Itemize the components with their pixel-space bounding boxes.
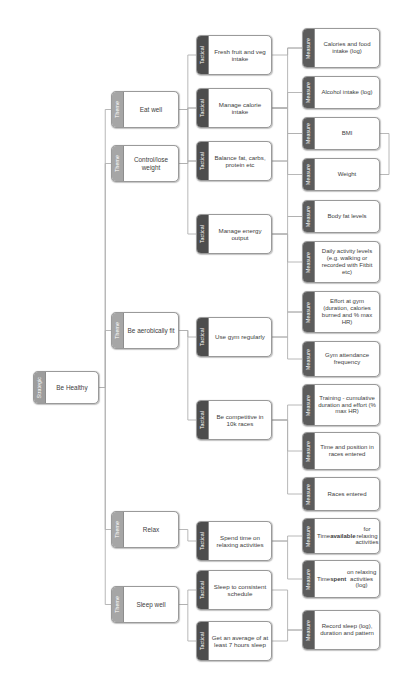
node-label-time-available-for-relaxing-activities: Time available for relaxing activities xyxy=(315,519,380,553)
connector-be-aerobically-fit-to-use-gym-regularly xyxy=(179,331,196,338)
level-band-daily-activity-levels: Measure xyxy=(303,242,315,282)
connector-balance-fat-carbs-protein-etc-to-body-fat-levels xyxy=(272,161,302,217)
connector-be-healthy-to-eat-well xyxy=(99,110,111,388)
tactical-node-get-an-average-of-at-least-7-hours-sleep[interactable]: TacticalGet an average of at least 7 hou… xyxy=(196,621,272,661)
connector-be-competitive-in-10k-races-to-races-entered xyxy=(272,420,302,494)
connector-control-lose-weight-to-manage-calorie-intake xyxy=(179,108,196,164)
tactical-node-manage-energy-output[interactable]: TacticalManage energy output xyxy=(196,214,272,254)
measure-node-training-cumulative-duration-and-effort[interactable]: MeasureTraining - cumulative duration an… xyxy=(302,384,380,426)
level-band-be-aerobically-fit: Theme xyxy=(112,313,124,348)
node-label-get-an-average-of-at-least-7-hours-sleep: Get an average of at least 7 hours sleep xyxy=(209,622,271,660)
level-band-control-lose-weight: Theme xyxy=(112,146,124,181)
level-band-weight: Measure xyxy=(303,159,315,190)
node-label-control-lose-weight: Control/lose weight xyxy=(124,146,178,181)
connector-be-aerobically-fit-to-be-competitive-in-10k-races xyxy=(179,331,196,421)
connector-balance-fat-carbs-protein-etc-to-bmi xyxy=(272,134,302,162)
connector-manage-energy-output-to-daily-activity-levels xyxy=(272,234,302,262)
theme-node-sleep-well[interactable]: ThemeSleep well xyxy=(111,586,179,623)
connector-be-competitive-in-10k-races-to-training-cumulative-duration-and-effort xyxy=(272,405,302,420)
level-label: Measure xyxy=(306,82,311,103)
tactical-node-fresh-fruit-and-veg-intake[interactable]: TacticalFresh fruit and veg intake xyxy=(196,35,272,75)
connector-eat-well-to-fresh-fruit-and-veg-intake xyxy=(179,55,196,110)
measure-node-time-available-for-relaxing-activities[interactable]: MeasureTime available for relaxing activ… xyxy=(302,518,380,554)
level-band-training-cumulative-duration-and-effort: Measure xyxy=(303,385,315,425)
theme-node-relax[interactable]: ThemeRelax xyxy=(111,511,179,548)
level-label: Tactical xyxy=(200,411,205,429)
theme-node-control-lose-weight[interactable]: ThemeControl/lose weight xyxy=(111,145,179,182)
measure-node-effort-at-gym[interactable]: MeasureEffort at gym (duration, calories… xyxy=(302,291,380,333)
theme-node-eat-well[interactable]: ThemeEat well xyxy=(111,91,179,128)
level-label: Measure xyxy=(306,441,311,462)
connector-be-healthy-to-relax xyxy=(99,388,111,530)
measure-node-gym-attendance-frequency[interactable]: MeasureGym attendance frequency xyxy=(302,341,380,377)
node-label-effort-at-gym: Effort at gym (duration, calories burned… xyxy=(315,292,379,332)
measure-node-alcohol-intake-log[interactable]: MeasureAlcohol intake (log) xyxy=(302,76,380,109)
node-label-relax: Relax xyxy=(124,512,178,547)
node-label-be-healthy: Be Healthy xyxy=(46,372,98,403)
level-band-manage-energy-output: Tactical xyxy=(197,215,209,253)
connector-manage-calorie-intake-to-alcohol-intake-log xyxy=(272,93,302,109)
level-label: Tactical xyxy=(200,532,205,550)
connector-control-lose-weight-to-balance-fat-carbs-protein-etc xyxy=(179,161,196,164)
node-label-manage-energy-output: Manage energy output xyxy=(209,215,271,253)
level-band-time-spent-on-relaxing-activities-log: Measure xyxy=(303,561,315,597)
connector-eat-well-to-manage-calorie-intake xyxy=(179,108,196,110)
level-band-spend-time-on-relaxing-activities: Tactical xyxy=(197,522,209,560)
measure-node-races-entered[interactable]: MeasureRaces entered xyxy=(302,477,380,511)
level-label: Strategic xyxy=(37,377,42,398)
connector-be-healthy-to-control-lose-weight xyxy=(99,164,111,388)
connector-get-an-average-of-at-least-7-hours-sleep-to-record-sleep-log-duration-and-pattern xyxy=(272,630,302,641)
node-label-balance-fat-carbs-protein-etc: Balance fat, carbs, protein etc xyxy=(209,142,271,180)
node-label-time-and-position-in-races-entered: Time and position in races entered xyxy=(315,433,379,469)
node-label-gym-attendance-frequency: Gym attendance frequency xyxy=(315,342,379,376)
level-label: Measure xyxy=(306,38,311,59)
level-label: Measure xyxy=(306,302,311,323)
measure-node-time-spent-on-relaxing-activities-log[interactable]: MeasureTime spent on relaxing activities… xyxy=(302,560,380,598)
level-band-be-healthy: Strategic xyxy=(34,372,46,403)
level-label: Measure xyxy=(306,569,311,590)
level-band-get-an-average-of-at-least-7-hours-sleep: Tactical xyxy=(197,622,209,660)
connector-be-competitive-in-10k-races-to-time-and-position-in-races-entered xyxy=(272,420,302,451)
tactical-node-manage-calorie-intake[interactable]: TacticalManage calorie intake xyxy=(196,88,272,128)
strategic-node-be-healthy[interactable]: StrategicBe Healthy xyxy=(33,371,99,404)
level-label: Theme xyxy=(115,521,120,538)
node-label-alcohol-intake-log: Alcohol intake (log) xyxy=(315,77,379,108)
level-label: Theme xyxy=(115,596,120,613)
connector-use-gym-regularly-to-effort-at-gym xyxy=(272,312,302,337)
connector-spend-time-on-relaxing-activities-to-time-spent-on-relaxing-activities-log xyxy=(272,541,302,579)
tactical-node-be-competitive-in-10k-races[interactable]: TacticalBe competitive in 10k races xyxy=(196,400,272,440)
tactical-node-sleep-to-consistent-schedule[interactable]: TacticalSleep to consistent schedule xyxy=(196,570,272,610)
connector-eat-well-to-balance-fat-carbs-protein-etc xyxy=(179,110,196,162)
node-label-body-fat-levels: Body fat levels xyxy=(315,201,379,232)
level-label: Tactical xyxy=(200,99,205,117)
node-label-fresh-fruit-and-veg-intake: Fresh fruit and veg intake xyxy=(209,36,271,74)
node-label-bmi: BMI xyxy=(315,118,379,149)
level-label: Measure xyxy=(306,206,311,227)
level-label: Measure xyxy=(306,526,311,547)
measure-node-daily-activity-levels[interactable]: MeasureDaily activity levels (e.g. walki… xyxy=(302,241,380,283)
level-label: Measure xyxy=(306,395,311,416)
diagram-canvas: StrategicBe HealthyThemeEat wellThemeCon… xyxy=(0,0,398,678)
level-label: Tactical xyxy=(200,632,205,650)
measure-node-record-sleep-log-duration-and-pattern[interactable]: MeasureRecord sleep (log), duration and … xyxy=(302,610,380,650)
node-label-sleep-to-consistent-schedule: Sleep to consistent schedule xyxy=(209,571,271,609)
level-band-time-available-for-relaxing-activities: Measure xyxy=(303,519,315,553)
measure-node-weight[interactable]: MeasureWeight xyxy=(302,158,380,191)
level-label: Measure xyxy=(306,164,311,185)
level-band-races-entered: Measure xyxy=(303,478,315,510)
node-label-manage-calorie-intake: Manage calorie intake xyxy=(209,89,271,127)
theme-node-be-aerobically-fit[interactable]: ThemeBe aerobically fit xyxy=(111,312,179,349)
node-label-daily-activity-levels: Daily activity levels (e.g. walking or r… xyxy=(315,242,379,282)
tactical-node-use-gym-regularly[interactable]: TacticalUse gym regularly xyxy=(196,317,272,357)
level-label: Theme xyxy=(115,322,120,339)
measure-node-calories-and-food-intake-log[interactable]: MeasureCalories and food intake (log) xyxy=(302,28,380,68)
node-label-be-competitive-in-10k-races: Be competitive in 10k races xyxy=(209,401,271,439)
tactical-node-balance-fat-carbs-protein-etc[interactable]: TacticalBalance fat, carbs, protein etc xyxy=(196,141,272,181)
level-band-calories-and-food-intake-log: Measure xyxy=(303,29,315,67)
level-band-use-gym-regularly: Tactical xyxy=(197,318,209,356)
level-label: Tactical xyxy=(200,328,205,346)
measure-node-body-fat-levels[interactable]: MeasureBody fat levels xyxy=(302,200,380,233)
tactical-node-spend-time-on-relaxing-activities[interactable]: TacticalSpend time on relaxing activitie… xyxy=(196,521,272,561)
measure-node-bmi[interactable]: MeasureBMI xyxy=(302,117,380,150)
measure-node-time-and-position-in-races-entered[interactable]: MeasureTime and position in races entere… xyxy=(302,432,380,470)
